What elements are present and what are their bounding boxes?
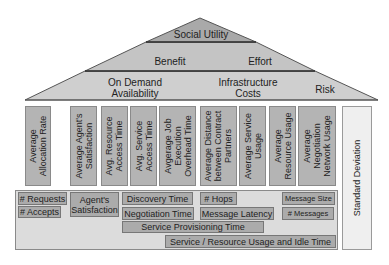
chip-requests: # Requests	[18, 192, 67, 205]
column-average-agents-satisfaction: Average Agent'sSatisfaction	[70, 106, 97, 186]
column-average-negotiation-network-usage: AverageNegotiationNetwork Usage	[298, 106, 336, 186]
infrastructure-line1: Infrastructure	[215, 77, 281, 88]
effort-label: Effort	[240, 56, 280, 67]
col-line: Access Time	[144, 120, 154, 171]
social-utility-label: Social Utility	[168, 29, 234, 40]
on-demand-line1: On Demand	[105, 77, 165, 88]
col-line: Negotiation	[312, 115, 322, 177]
column-standard-deviation: Standard Deviation	[342, 106, 372, 250]
chip-agents-satisfaction: Agent's Satisfaction	[70, 192, 119, 217]
tier2-shape	[85, 42, 315, 71]
column-average-service-usage: Average ServiceUsage	[239, 106, 266, 186]
col-line: Avg. Service	[134, 120, 144, 171]
column-average-allocation-rate: AverageAllocation Rate	[25, 106, 51, 186]
col-line: Avg. Resource	[105, 117, 115, 176]
column-average-resource-usage: AverageResource Usage	[269, 106, 296, 186]
col-line: Overhead Time	[183, 115, 193, 177]
chip-service-resource-usage-idle-time: Service / Resource Usage and Idle Time	[165, 235, 336, 248]
col-line: Average	[273, 112, 283, 179]
col-line: Usage	[253, 113, 263, 179]
col-line: Execution	[173, 115, 183, 177]
col-line: Average Distance	[204, 111, 214, 182]
on-demand-line2: Availability	[105, 88, 165, 99]
col-line: Average	[302, 115, 312, 177]
col-line: Avgerage Job	[163, 115, 173, 177]
chip-negotiation-time: Negotiation Time	[122, 207, 194, 220]
chip-hops: # Hops	[200, 192, 237, 205]
agents-satisfaction-line1: Agent's	[80, 195, 110, 205]
infrastructure-line2: Costs	[215, 88, 281, 99]
col-line: Average Service	[243, 113, 253, 179]
social-utility-pyramid-diagram: Social Utility Benefit Effort On Demand …	[0, 0, 389, 265]
standard-deviation-label: Standard Deviation	[352, 140, 362, 217]
chip-message-size: Message Size	[282, 192, 335, 205]
chip-message-latency: Message Latency	[200, 207, 274, 220]
col-line: between Contract	[214, 111, 224, 182]
infrastructure-costs-label: Infrastructure Costs	[215, 77, 281, 99]
risk-label: Risk	[310, 84, 340, 95]
col-line: Resource Usage	[283, 112, 293, 179]
col-line: Average	[28, 116, 38, 177]
col-line: Network Usage	[322, 115, 332, 177]
benefit-label: Benefit	[150, 56, 190, 67]
column-avg-service-access-time: Avg. ServiceAccess Time	[130, 106, 157, 186]
column-average-job-execution-overhead-time: Avgerage JobExecutionOverhead Time	[159, 106, 196, 186]
on-demand-availability-label: On Demand Availability	[105, 77, 165, 99]
agents-satisfaction-line2: Satisfaction	[71, 205, 118, 215]
col-line: Partners	[224, 111, 234, 182]
column-avg-resource-access-time: Avg. ResourceAccess Time	[101, 106, 128, 186]
column-average-distance-contract-partners: Average Distancebetween ContractPartners	[200, 106, 237, 186]
chip-messages: # Messages	[282, 207, 334, 220]
col-line: Average Agent's	[74, 113, 84, 178]
chip-discovery-time: Discovery Time	[122, 192, 193, 205]
col-line: Satisfaction	[84, 113, 94, 178]
chip-accepts: # Accepts	[18, 206, 61, 218]
col-line: Access Time	[115, 117, 125, 176]
col-line: Allocation Rate	[38, 116, 48, 177]
chip-service-provisioning-time: Service Provisioning Time	[122, 221, 264, 233]
